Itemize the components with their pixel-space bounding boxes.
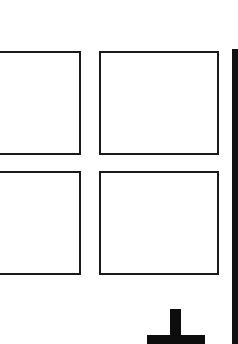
scrollbar[interactable] <box>232 49 238 344</box>
grid-tile-top-right[interactable] <box>99 51 219 155</box>
grid-tile-bottom-left[interactable] <box>0 171 81 275</box>
grid-tile-top-left[interactable] <box>0 51 81 155</box>
add-button[interactable] <box>146 308 206 344</box>
plus-icon-bar <box>147 335 205 344</box>
screen <box>0 0 238 344</box>
grid-tile-bottom-right[interactable] <box>99 171 219 275</box>
